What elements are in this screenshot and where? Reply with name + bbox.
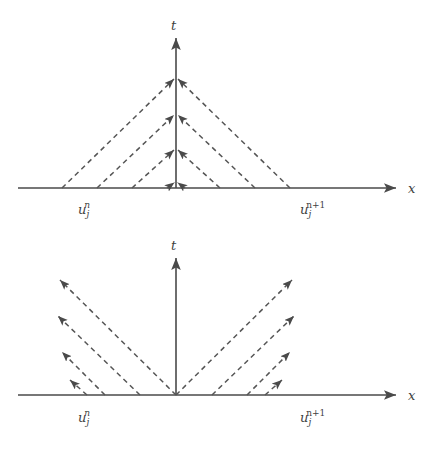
right-node-label: ujn+1 [300, 408, 325, 427]
characteristic-ray [178, 79, 290, 188]
characteristic-ray [60, 280, 176, 395]
characteristic-ray [265, 380, 282, 395]
characteristic-ray [167, 183, 175, 189]
characteristic-ray [97, 115, 174, 188]
right-node-label: ujn+1 [300, 200, 325, 219]
characteristic-ray [178, 183, 186, 189]
lower-panel-canvas: t x ujn ujn+1 [0, 230, 431, 457]
characteristic-ray [58, 316, 140, 395]
lower-panel: t x ujn ujn+1 [0, 230, 431, 457]
left-node-label: ujn [78, 408, 90, 427]
x-axis-label: x [408, 181, 416, 196]
characteristic-ray [70, 380, 87, 395]
characteristic-ray [62, 352, 105, 395]
characteristic-ray [62, 79, 174, 188]
characteristic-ray [178, 150, 220, 188]
t-axis-label: t [171, 18, 177, 33]
characteristic-ray [132, 150, 174, 188]
t-axis-label: t [171, 238, 177, 253]
upper-panel-canvas: t x ujn ujn+1 [0, 0, 431, 230]
upper-panel: t x ujn ujn+1 [0, 0, 431, 230]
characteristic-ray [178, 115, 255, 188]
characteristics-figure: t x ujn ujn+1 [0, 0, 431, 457]
left-node-label: ujn [78, 200, 90, 219]
x-axis-label: x [408, 388, 416, 403]
characteristic-ray [176, 280, 292, 395]
characteristic-ray [247, 352, 290, 395]
characteristic-ray [212, 316, 294, 395]
